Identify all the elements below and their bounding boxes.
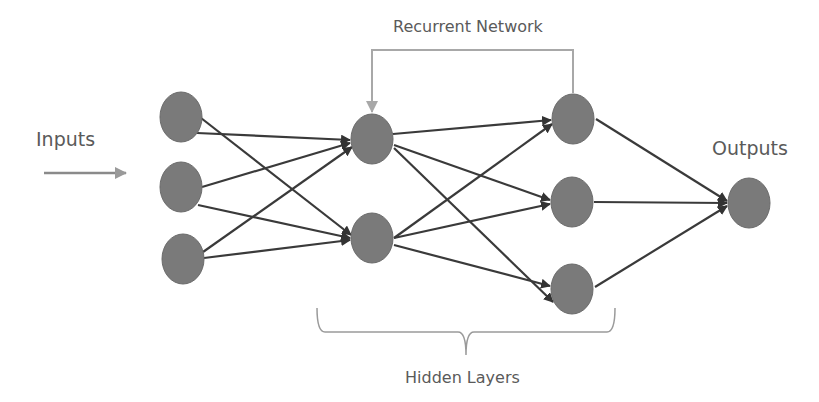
hidden-layers-bracket xyxy=(317,308,615,355)
edges-hidden2-to-output xyxy=(594,119,727,287)
input-node xyxy=(160,162,202,212)
hidden-node xyxy=(551,177,593,227)
hidden-node xyxy=(351,114,393,164)
input-node xyxy=(160,92,202,142)
outputs-label: Outputs xyxy=(712,137,788,159)
hidden-layer-1 xyxy=(351,114,393,263)
recurrent-network-label: Recurrent Network xyxy=(393,17,543,36)
output-layer xyxy=(728,178,770,228)
input-layer xyxy=(160,92,204,284)
network-diagram xyxy=(0,0,819,402)
hidden-layer-2 xyxy=(551,94,594,314)
recurrent-connection xyxy=(372,50,573,112)
output-node xyxy=(728,178,770,228)
hidden-node xyxy=(351,213,393,263)
inputs-label: Inputs xyxy=(36,128,95,150)
edges-hidden1-to-hidden2 xyxy=(393,120,553,302)
edges-input-to-hidden1 xyxy=(197,118,352,258)
hidden-node xyxy=(552,94,594,144)
input-node xyxy=(162,234,204,284)
hidden-layers-label: Hidden Layers xyxy=(405,368,520,387)
hidden-node xyxy=(551,264,593,314)
